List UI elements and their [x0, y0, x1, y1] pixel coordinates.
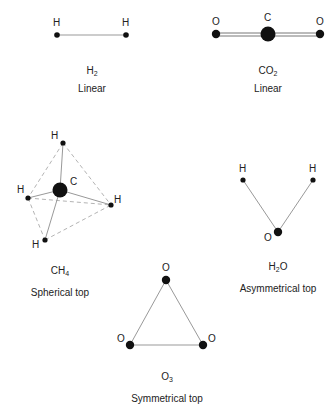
- o3-structure: [126, 276, 207, 349]
- atom-o: [212, 30, 220, 38]
- co2-formula: CO2: [208, 66, 328, 77]
- atom-label: H: [309, 164, 316, 174]
- atom-o: [126, 341, 134, 349]
- atom-h: [240, 177, 245, 182]
- h2-formula: H2: [32, 66, 152, 77]
- ch4-formula: CH4: [0, 266, 120, 277]
- h2o-formula: H2O: [218, 262, 336, 273]
- atom-label: H: [51, 131, 58, 141]
- atom-h: [310, 177, 315, 182]
- atom-o: [199, 341, 207, 349]
- h2-type: Linear: [32, 84, 152, 94]
- o3-formula: O3: [107, 372, 227, 383]
- ch4-type: Spherical top: [0, 288, 120, 298]
- atom-label: H: [122, 18, 129, 28]
- atom-label: H: [239, 164, 246, 174]
- atom-label: H: [32, 240, 39, 250]
- co2-structure: [212, 27, 324, 42]
- atom-c: [261, 27, 276, 42]
- atom-h: [25, 195, 30, 200]
- o3-type: Symmetrical top: [107, 394, 227, 404]
- atom-label: O: [117, 334, 125, 344]
- atom-o: [162, 276, 170, 284]
- h2-structure: [54, 32, 129, 38]
- co2-type: Linear: [208, 84, 328, 94]
- h2o-type: Asymmetrical top: [218, 284, 336, 294]
- atom-label: H: [17, 185, 24, 195]
- atom-label: C: [264, 13, 271, 23]
- atom-label: O: [208, 334, 216, 344]
- atom-h: [54, 32, 60, 38]
- ch4-structure: [25, 140, 113, 242]
- atom-label: C: [70, 177, 77, 187]
- atom-label: O: [162, 263, 170, 273]
- atom-h: [123, 32, 129, 38]
- atom-o: [316, 30, 324, 38]
- atom-h: [42, 237, 47, 242]
- h2o-structure: [240, 177, 315, 236]
- atom-label: H: [114, 195, 121, 205]
- atom-label: O: [212, 17, 220, 27]
- atom-label: O: [316, 17, 324, 27]
- atom-label: O: [264, 233, 272, 243]
- atom-o: [274, 228, 282, 236]
- atom-h: [60, 140, 65, 145]
- molecule-diagram: [0, 0, 336, 411]
- atom-c: [53, 183, 68, 198]
- atom-label: H: [53, 18, 60, 28]
- atom-h: [108, 202, 113, 207]
